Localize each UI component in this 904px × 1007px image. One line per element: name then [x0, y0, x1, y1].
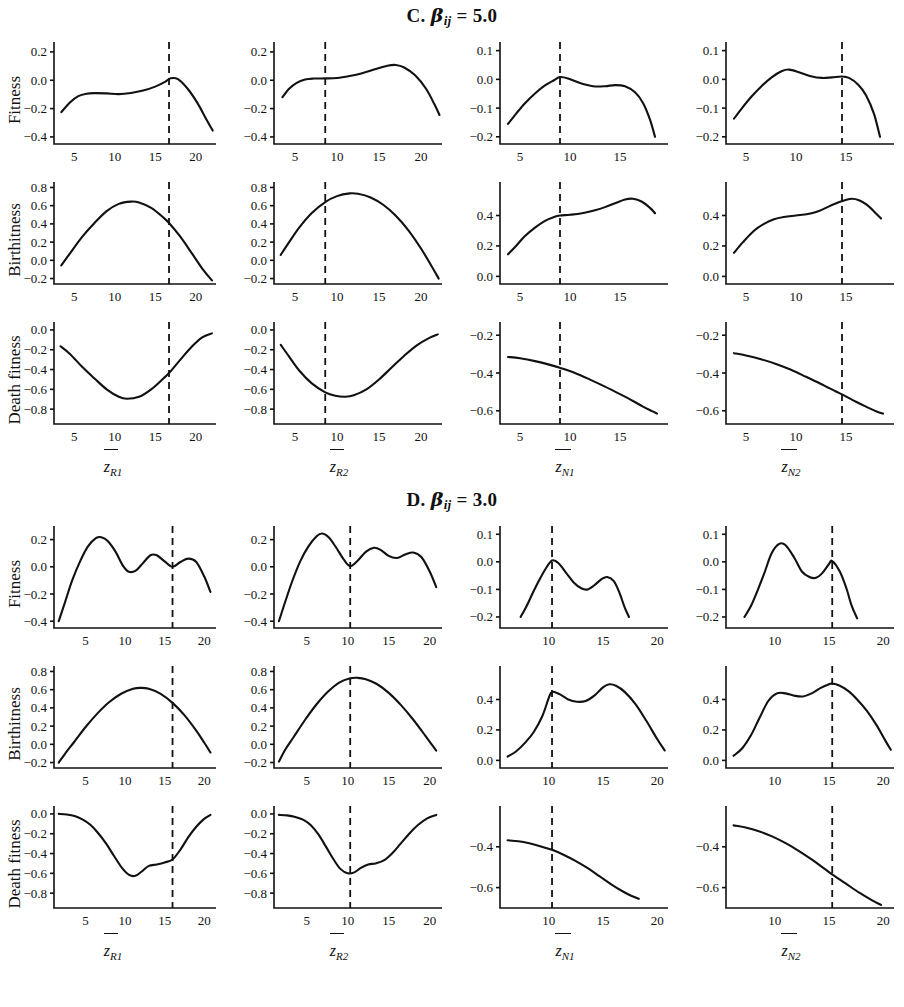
- panel-C-title-subscript: ij: [444, 13, 452, 28]
- plot-area: 0.40.20.0101520: [452, 654, 678, 794]
- data-curve: [281, 334, 438, 396]
- plot-area: 0.80.60.40.20.0−0.25101520: [226, 170, 452, 310]
- y-tick-label: 0.0: [703, 753, 719, 768]
- x-tick-label: 20: [423, 913, 436, 928]
- x-tick-label: 10: [331, 429, 344, 444]
- x-tick-label: 10: [768, 633, 781, 648]
- x-axis-label: zR2: [226, 450, 452, 484]
- x-axis-label: zR1: [0, 934, 226, 968]
- x-tick-label: 20: [198, 913, 211, 928]
- x-tick-label: 5: [82, 773, 89, 788]
- x-tick-label: 10: [564, 289, 577, 304]
- panel-C-title: C. βij = 5.0: [0, 0, 904, 30]
- x-tick-label: 20: [189, 289, 202, 304]
- x-tick-label: 15: [382, 773, 395, 788]
- y-tick-label: 0.4: [703, 208, 720, 223]
- plot-cell: 0.10.0−0.1−0.251015: [452, 30, 678, 170]
- x-tick-label: 5: [71, 429, 78, 444]
- y-tick-label: 0.2: [703, 722, 719, 737]
- y-tick-label: −0.4: [243, 846, 267, 861]
- y-tick-label: 0.2: [251, 44, 267, 59]
- data-curve: [60, 333, 211, 398]
- y-tick-label: 0.0: [31, 559, 47, 574]
- y-tick-label: 0.0: [251, 73, 267, 88]
- x-axis-label-subscript: R2: [336, 466, 348, 478]
- y-tick-label: −0.4: [23, 129, 47, 144]
- y-tick-label: −0.2: [23, 271, 47, 286]
- data-curve: [59, 688, 211, 763]
- plot-cell: 0.20.0−0.2−0.45101520: [226, 30, 452, 170]
- y-tick-label: −0.1: [469, 101, 493, 116]
- plot-cell: 0.80.60.40.20.0−0.25101520: [226, 654, 452, 794]
- x-tick-label: 15: [596, 773, 609, 788]
- y-tick-label: 0.0: [31, 73, 47, 88]
- data-curve: [279, 678, 436, 762]
- x-tick-label: 15: [596, 913, 609, 928]
- plot-axes: [274, 806, 442, 908]
- y-tick-label: −0.2: [243, 342, 267, 357]
- y-tick-label: −0.2: [469, 328, 493, 343]
- x-axis-label-text: zR2: [330, 934, 348, 973]
- x-tick-label: 10: [331, 149, 344, 164]
- y-tick-label: −0.2: [695, 129, 719, 144]
- plot-cell: 0.40.20.0101520: [452, 654, 678, 794]
- x-tick-label: 5: [304, 913, 311, 928]
- x-tick-label: 10: [564, 149, 577, 164]
- data-curve: [508, 840, 639, 899]
- plot-area: 0.80.60.40.20.0−0.25101520: [226, 654, 452, 794]
- y-tick-label: 0.0: [477, 72, 493, 87]
- y-tick-label: −0.6: [695, 880, 719, 895]
- x-tick-label: 5: [292, 289, 299, 304]
- plot-cell: 0.0−0.2−0.4−0.6−0.85101520: [226, 794, 452, 934]
- y-tick-label: 0.4: [703, 692, 720, 707]
- x-tick-label: 5: [292, 429, 299, 444]
- x-tick-label: 15: [840, 429, 853, 444]
- x-axis-label: zN2: [678, 934, 904, 968]
- y-tick-label: 0.0: [703, 72, 719, 87]
- x-axis-label: zR1: [0, 450, 226, 484]
- y-tick-label: −0.2: [243, 101, 267, 116]
- y-tick-label: 0.0: [477, 269, 493, 284]
- y-tick-label: 0.8: [251, 664, 267, 679]
- x-tick-label: 20: [423, 633, 436, 648]
- x-tick-label: 10: [542, 913, 555, 928]
- plot-area: 0.20.0−0.2−0.45101520: [226, 30, 452, 170]
- x-axis-label: zN1: [452, 934, 678, 968]
- x-tick-label: 10: [119, 633, 132, 648]
- plot-axes: [54, 182, 216, 284]
- x-tick-label: 10: [341, 633, 354, 648]
- y-tick-label: −0.2: [469, 609, 493, 624]
- x-axis-label-subscript: R1: [110, 466, 122, 478]
- y-tick-label: −0.8: [23, 886, 47, 901]
- y-tick-label: −0.1: [695, 582, 719, 597]
- plot-area: −0.4−0.6101520: [452, 794, 678, 934]
- data-curve: [508, 199, 655, 255]
- plot-area: 0.40.20.051015: [452, 170, 678, 310]
- overbar: [781, 449, 796, 450]
- data-curve: [61, 78, 212, 131]
- plot-area: 0.0−0.2−0.4−0.6−0.85101520: [0, 310, 226, 450]
- x-tick-label: 5: [82, 633, 89, 648]
- x-tick-label: 15: [822, 913, 835, 928]
- plot-cell: 0.20.0−0.2−0.45101520: [226, 514, 452, 654]
- x-tick-label: 10: [119, 773, 132, 788]
- data-curve: [521, 560, 629, 617]
- y-tick-label: −0.6: [469, 880, 493, 895]
- y-tick-label: −0.6: [243, 866, 267, 881]
- x-tick-label: 5: [71, 289, 78, 304]
- y-tick-label: 0.4: [477, 692, 494, 707]
- data-curve: [734, 353, 883, 413]
- plot-cell: 0.0−0.2−0.4−0.6−0.85101520: [226, 310, 452, 450]
- y-tick-label: 0.8: [31, 664, 47, 679]
- plot-area: 0.80.60.40.20.0−0.25101520: [0, 654, 226, 794]
- x-axis-label: zR2: [226, 934, 452, 968]
- plot-cell: Fitness0.20.0−0.2−0.45101520: [0, 514, 226, 654]
- x-axis-label-subscript: R1: [110, 950, 122, 962]
- x-axis-label: zN2: [678, 450, 904, 484]
- plot-area: 0.20.0−0.2−0.45101520: [226, 514, 452, 654]
- y-tick-label: −0.1: [695, 101, 719, 116]
- plot-axes: [274, 526, 442, 628]
- y-tick-label: −0.6: [469, 403, 493, 418]
- overbar: [104, 933, 118, 934]
- y-tick-label: 0.0: [251, 253, 267, 268]
